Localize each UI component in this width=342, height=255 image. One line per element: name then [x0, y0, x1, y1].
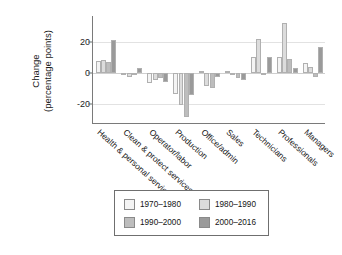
bar	[230, 73, 235, 75]
legend-item-1970-1980: 1970–1980	[124, 199, 181, 210]
bar	[153, 73, 158, 80]
bar	[267, 57, 272, 73]
legend-item-2000-2016: 2000–2016	[199, 217, 256, 228]
bar	[225, 71, 230, 73]
legend-label-2000-2016: 2000–2016	[215, 218, 256, 227]
bar	[101, 60, 106, 73]
bar	[158, 73, 163, 78]
bar	[199, 71, 204, 73]
bar	[210, 73, 215, 88]
bar	[287, 59, 292, 73]
bar	[204, 73, 209, 86]
y-axis-tick-labels: 20 0 -20	[56, 0, 90, 255]
y-axis-title-line2: (percentage points)	[41, 30, 52, 112]
legend-label-1980-1990: 1980–1990	[215, 200, 256, 209]
y-axis-title-line1: Change	[30, 54, 41, 87]
bar	[184, 73, 189, 117]
plot-area	[92, 16, 325, 124]
bar	[173, 73, 178, 94]
y-tick-label-neg20: -20	[58, 99, 90, 109]
bar	[282, 23, 287, 73]
bar	[127, 73, 132, 77]
bar	[277, 57, 282, 73]
bar	[293, 68, 298, 73]
legend-item-1990-2000: 1990–2000	[124, 217, 181, 228]
bar	[121, 73, 126, 75]
legend-swatch-1970-1980	[124, 199, 135, 210]
bar	[241, 73, 246, 80]
legend-label-1990-2000: 1990–2000	[140, 218, 181, 227]
bar	[318, 47, 323, 73]
bar	[179, 73, 184, 105]
legend-swatch-2000-2016	[199, 217, 210, 228]
bar	[96, 61, 101, 73]
chart-legend: 1970–1980 1980–1990 1990–2000 2000–2016	[114, 190, 269, 236]
bar	[147, 73, 152, 83]
bar	[111, 40, 116, 73]
legend-swatch-1980-1990	[199, 199, 210, 210]
bar	[137, 68, 142, 73]
legend-label-1970-1980: 1970–1980	[140, 200, 181, 209]
bar	[261, 73, 266, 75]
bar	[215, 73, 220, 77]
bar	[251, 57, 256, 73]
x-axis-label-6: Sales	[225, 127, 247, 148]
bar	[236, 73, 241, 78]
y-axis-title: Change (percentage points)	[28, 16, 54, 126]
bar	[256, 39, 261, 73]
bar	[132, 73, 137, 75]
bar	[106, 62, 111, 73]
bar	[189, 73, 194, 95]
bar	[313, 73, 318, 77]
bar	[303, 63, 308, 73]
legend-item-1980-1990: 1980–1990	[199, 199, 256, 210]
y-tick-label-0: 0	[58, 68, 90, 78]
y-tick-label-20: 20	[58, 37, 90, 47]
bar	[308, 67, 313, 73]
gridline-neg20	[93, 104, 325, 105]
gridline-20	[93, 42, 325, 43]
chart-figure: Change (percentage points) 20 0 -20 Heal…	[0, 0, 342, 255]
bar	[163, 73, 168, 82]
legend-swatch-1990-2000	[124, 217, 135, 228]
